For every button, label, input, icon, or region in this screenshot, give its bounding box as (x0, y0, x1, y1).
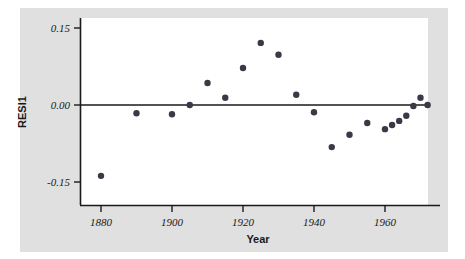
x-axis-title: Year (246, 233, 270, 245)
data-point (133, 110, 139, 116)
data-point (275, 51, 281, 57)
data-point (346, 132, 352, 138)
scatter-plot: 0.150.00-0.15 18801900192019401960 RESI1… (0, 0, 465, 259)
figure-container: 0.150.00-0.15 18801900192019401960 RESI1… (0, 0, 465, 259)
data-point (364, 120, 370, 126)
y-axis-ticks: 0.150.00-0.15 (47, 22, 80, 188)
data-point (403, 113, 409, 119)
data-point (424, 102, 430, 108)
data-point (258, 40, 264, 46)
y-tick-label: 0.15 (51, 22, 71, 34)
data-point (293, 92, 299, 98)
x-tick-label: 1940 (303, 216, 326, 228)
data-point (204, 80, 210, 86)
data-point (389, 122, 395, 128)
data-point (396, 118, 402, 124)
data-point (311, 109, 317, 115)
x-tick-label: 1900 (161, 216, 184, 228)
x-tick-label: 1880 (90, 216, 113, 228)
y-tick-label: -0.15 (47, 176, 70, 188)
x-tick-label: 1920 (232, 216, 255, 228)
plot-area-background (80, 18, 428, 205)
data-point (187, 102, 193, 108)
y-tick-label: 0.00 (51, 99, 71, 111)
data-point (410, 103, 416, 109)
x-tick-label: 1960 (374, 216, 397, 228)
data-point (329, 144, 335, 150)
data-point (417, 95, 423, 101)
data-point (98, 173, 104, 179)
data-point (169, 111, 175, 117)
data-point (222, 95, 228, 101)
data-point (240, 65, 246, 71)
y-axis-title: RESI1 (16, 96, 28, 128)
data-point (382, 126, 388, 132)
x-axis-ticks: 18801900192019401960 (90, 205, 397, 228)
